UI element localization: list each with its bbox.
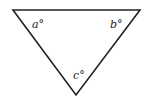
angle-label-c: c° [73, 69, 85, 82]
triangle-diagram: a° b° c° [0, 0, 145, 100]
angle-label-b: b° [110, 18, 123, 31]
angle-label-a: a° [32, 18, 44, 31]
